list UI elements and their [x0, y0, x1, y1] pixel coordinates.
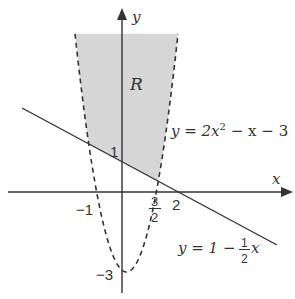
parabola-equation-label: y = 2x2 − x − 3 [170, 121, 288, 140]
tick-label-three-halves-num: 3 [151, 194, 158, 209]
tick-label-two: 2 [172, 196, 180, 213]
graph-canvas: y x R −1 3 2 2 1 −3 y = 2x2 − x − 3 y = … [0, 0, 295, 299]
x-axis-label: x [272, 170, 281, 188]
line-eq-frac-den: 2 [241, 252, 248, 266]
tick-label-neg-one: −1 [76, 201, 93, 218]
parabola-eq-prefix: y = 2x [170, 122, 220, 140]
line-eq-prefix: y = 1 − [177, 239, 235, 257]
graph-figure: y x R −1 3 2 2 1 −3 y = 2x2 − x − 3 y = … [0, 0, 295, 299]
line-eq-suffix: x [251, 239, 260, 257]
line-equation-label: y = 1 − [177, 239, 235, 257]
tick-label-three-halves-den: 2 [151, 210, 158, 225]
y-axis-arrow-icon [117, 8, 127, 20]
tick-label-neg-three: −3 [96, 266, 113, 283]
line-eq-frac-num: 1 [241, 236, 248, 250]
y-axis-label: y [131, 8, 141, 26]
tick-label-one: 1 [110, 143, 118, 160]
parabola-eq-suffix: − x − 3 [226, 122, 288, 140]
x-axis-arrow-icon [281, 187, 293, 197]
region-label: R [129, 74, 143, 94]
